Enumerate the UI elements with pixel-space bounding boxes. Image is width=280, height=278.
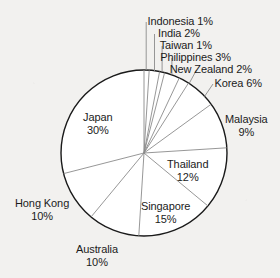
slice-label-japan-value: 30%	[83, 124, 112, 137]
slice-label-japan-name: Japan	[83, 111, 112, 124]
slice-label-philippines: Philippines 3%	[160, 51, 231, 64]
slice-label-thailand-value: 12%	[167, 171, 208, 184]
slice-label-australia: Australia 10%	[76, 243, 118, 268]
slice-label-malaysia: Malaysia 9%	[225, 113, 268, 138]
slice-label-philippines-text: Philippines 3%	[160, 51, 231, 63]
slice-label-taiwan: Taiwan 1%	[160, 39, 212, 52]
slice-label-australia-value: 10%	[76, 256, 118, 269]
pie-chart: Indonesia 1% India 2% Taiwan 1% Philippi…	[0, 0, 280, 278]
slice-label-japan: Japan 30%	[83, 111, 112, 136]
slice-label-korea-text: Korea 6%	[214, 77, 262, 89]
slice-label-malaysia-name: Malaysia	[225, 113, 268, 126]
slice-label-india-text: India 2%	[158, 27, 200, 39]
slice-label-thailand-name: Thailand	[167, 158, 208, 171]
slice-label-malaysia-value: 9%	[225, 126, 268, 139]
slice-label-indonesia-text: Indonesia 1%	[148, 15, 213, 27]
slice-label-singapore-value: 15%	[141, 213, 190, 226]
slice-label-singapore: Singapore 15%	[141, 200, 190, 225]
slice-label-korea: Korea 6%	[214, 77, 262, 90]
slice-label-hong-kong-value: 10%	[15, 210, 69, 223]
slice-label-hong-kong-name: Hong Kong	[15, 197, 69, 210]
slice-label-hong-kong: Hong Kong 10%	[15, 197, 69, 222]
slice-label-australia-name: Australia	[76, 243, 118, 256]
slice-label-taiwan-text: Taiwan 1%	[160, 39, 212, 51]
slice-label-indonesia: Indonesia 1%	[148, 15, 213, 28]
leader-line-korea	[204, 84, 213, 97]
slice-label-new-zealand-text: New Zealand 2%	[170, 63, 252, 75]
slice-label-thailand: Thailand 12%	[167, 158, 208, 183]
pie-chart-graphic	[0, 0, 280, 278]
slice-label-india: India 2%	[158, 27, 200, 40]
slice-label-singapore-name: Singapore	[141, 200, 190, 213]
slice-label-new-zealand: New Zealand 2%	[170, 63, 252, 76]
